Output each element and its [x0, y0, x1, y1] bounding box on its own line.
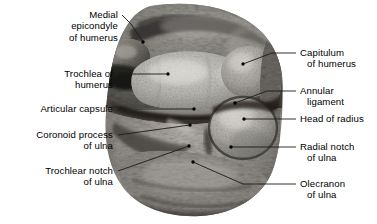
label-line: Capitulum	[300, 47, 356, 58]
leader-trochlear-notch-of-ulna	[118, 146, 189, 171]
label-line: Head of radius	[300, 113, 364, 124]
label-line: of ulna	[36, 140, 113, 151]
label-line: Olecranon	[300, 178, 345, 189]
leader-dot-head-of-radius	[242, 117, 245, 120]
leader-dot-coronoid-process-of-ulna	[188, 123, 191, 126]
label-line: Radial notch	[300, 141, 355, 152]
leader-capitulum-of-humerus	[243, 53, 296, 64]
leader-annular-ligament	[235, 91, 296, 103]
label-line: epicondyle	[69, 20, 118, 31]
label-line: Medial	[69, 9, 118, 20]
leader-dot-medial-epicondyle-of-humerus	[141, 40, 144, 43]
label-trochlear-notch-of-ulna: Trochlear notchof ulna	[45, 165, 113, 188]
leader-dot-articular-capsule	[192, 107, 195, 110]
leader-dot-capitulum-of-humerus	[241, 62, 244, 65]
leader-dot-olecranon-of-ulna	[191, 160, 194, 163]
label-articular-capsule: Articular capsule	[40, 103, 113, 114]
label-trochlea-of-humerus: Trochlea ofhumerus	[64, 68, 113, 91]
leader-dot-annular-ligament	[233, 101, 236, 104]
label-line: of ulna	[300, 189, 345, 200]
label-line: of humerus	[69, 32, 118, 43]
label-line: Annular	[300, 85, 344, 96]
label-medial-epicondyle-of-humerus: Medialepicondyleof humerus	[69, 9, 118, 43]
label-line: Coronoid process	[36, 129, 113, 140]
leader-dot-trochlear-notch-of-ulna	[187, 144, 190, 147]
leader-coronoid-process-of-ulna	[118, 125, 190, 135]
label-head-of-radius: Head of radius	[300, 113, 364, 124]
label-line: of ulna	[45, 176, 113, 187]
label-line: Trochlea of	[64, 68, 113, 79]
label-line: of ulna	[300, 152, 355, 163]
label-coronoid-process-of-ulna: Coronoid processof ulna	[36, 129, 113, 152]
label-annular-ligament: Annularligament	[300, 85, 344, 108]
leader-dot-trochlea-of-humerus	[166, 72, 169, 75]
leader-dot-radial-notch-of-ulna	[229, 145, 232, 148]
leader-olecranon-of-ulna	[193, 162, 296, 184]
label-line: humerus	[64, 79, 113, 90]
label-line: Trochlear notch	[45, 165, 113, 176]
label-line: ligament	[300, 96, 344, 107]
leader-medial-epicondyle-of-humerus	[122, 15, 143, 42]
label-capitulum-of-humerus: Capitulumof humerus	[300, 47, 356, 70]
label-olecranon-of-ulna: Olecranonof ulna	[300, 178, 345, 201]
label-line: of humerus	[300, 58, 356, 69]
label-radial-notch-of-ulna: Radial notchof ulna	[300, 141, 355, 164]
anatomy-figure: Medialepicondyleof humerusTrochlea ofhum…	[0, 0, 377, 224]
label-line: Articular capsule	[40, 103, 113, 114]
